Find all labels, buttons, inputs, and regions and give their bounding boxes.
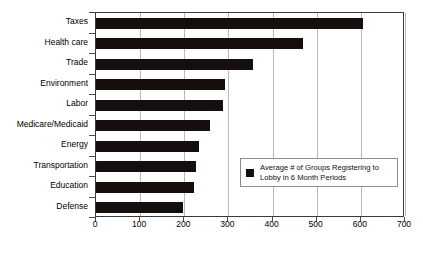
bar xyxy=(96,18,363,29)
x-axis-tick xyxy=(360,217,361,221)
bar-band xyxy=(96,34,403,55)
bar-chart: TaxesHealth careTradeEnvironmentLaborMed… xyxy=(0,0,423,267)
y-axis-tick xyxy=(89,156,95,157)
bar xyxy=(96,79,225,90)
y-axis-label: Medicare/Medicaid xyxy=(0,120,88,129)
legend-swatch-icon xyxy=(246,169,254,177)
bar-band xyxy=(96,13,403,34)
x-axis-tick xyxy=(272,217,273,221)
y-axis-tick xyxy=(89,135,95,136)
bar-band xyxy=(96,95,403,116)
bar xyxy=(96,182,194,193)
y-axis-label: Transportation xyxy=(0,161,88,170)
x-axis-tick xyxy=(183,217,184,221)
legend-label: Average # of Groups Registering to Lobby… xyxy=(260,163,392,182)
y-axis-tick xyxy=(89,74,95,75)
bar xyxy=(96,141,199,152)
x-axis-tick xyxy=(139,217,140,221)
bar-band xyxy=(96,136,403,157)
y-axis-tick xyxy=(89,197,95,198)
x-axis-tick-labels: 0100200300400500600700 xyxy=(0,219,423,235)
y-axis-label: Taxes xyxy=(0,17,88,26)
y-axis-label: Energy xyxy=(0,140,88,149)
bar xyxy=(96,161,196,172)
y-axis-tick xyxy=(89,53,95,54)
y-axis-label: Education xyxy=(0,181,88,190)
bar xyxy=(96,100,223,111)
bar xyxy=(96,202,183,213)
x-axis-tick xyxy=(95,217,96,221)
gridline xyxy=(405,13,406,216)
y-axis-tick xyxy=(89,176,95,177)
y-axis-label: Health care xyxy=(0,38,88,47)
y-axis-label: Environment xyxy=(0,79,88,88)
bar-band xyxy=(96,198,403,219)
y-axis-tick xyxy=(89,12,95,13)
bar-band xyxy=(96,75,403,96)
bar xyxy=(96,59,253,70)
y-axis-tick xyxy=(89,33,95,34)
x-axis-tick xyxy=(316,217,317,221)
bar xyxy=(96,120,210,131)
y-axis-label: Labor xyxy=(0,99,88,108)
x-axis-tick xyxy=(227,217,228,221)
y-axis-label: Trade xyxy=(0,58,88,67)
y-axis-label: Defense xyxy=(0,202,88,211)
bar xyxy=(96,38,303,49)
bar-band xyxy=(96,54,403,75)
y-axis-tick xyxy=(89,115,95,116)
bar-band xyxy=(96,116,403,137)
legend: Average # of Groups Registering to Lobby… xyxy=(240,158,398,187)
x-axis-tick xyxy=(404,217,405,221)
y-axis-category-labels: TaxesHealth careTradeEnvironmentLaborMed… xyxy=(0,12,88,217)
y-axis-tick xyxy=(89,94,95,95)
